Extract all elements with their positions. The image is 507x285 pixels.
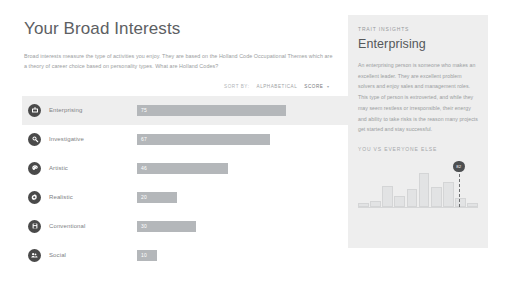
score-marker-badge: 82 — [453, 161, 465, 173]
interest-bar-fill — [137, 163, 228, 174]
interest-row-realistic[interactable]: Realistic 20 — [22, 183, 348, 212]
interest-label: Artistic — [49, 165, 137, 171]
sort-by-label: SORT BY: — [224, 84, 249, 89]
histogram-bar — [431, 187, 442, 207]
interest-bar-value: 10 — [141, 250, 147, 261]
trait-insight-card: TRAIT INSIGHTS Enterprising An enterpris… — [348, 15, 488, 248]
interest-bar-fill — [137, 105, 286, 116]
interest-bar-fill — [137, 134, 270, 145]
trait-insights-kicker: TRAIT INSIGHTS — [358, 26, 478, 32]
interest-bar-value: 67 — [141, 134, 147, 145]
interest-row-social[interactable]: Social 10 — [22, 241, 348, 270]
sort-option-score[interactable]: SCORE — [304, 84, 323, 89]
sort-controls: SORT BY: ALPHABETICAL SCORE ▾ — [22, 84, 330, 89]
chevron-down-icon[interactable]: ▾ — [327, 84, 330, 89]
interest-row-investigative[interactable]: Investigative 67 — [22, 125, 348, 154]
interest-bar-value: 46 — [141, 163, 147, 174]
report-page: Your Broad Interests Broad interests mea… — [0, 0, 507, 285]
interest-bar-track: 46 — [137, 163, 335, 174]
palette-icon — [28, 162, 41, 175]
interest-bar-track: 67 — [137, 134, 335, 145]
histogram-bar — [407, 189, 418, 207]
magnifier-icon — [28, 133, 41, 146]
interest-bar-track: 10 — [137, 250, 335, 261]
interest-label: Social — [49, 252, 137, 258]
broad-interests-section: Your Broad Interests Broad interests mea… — [8, 6, 348, 279]
briefcase-icon — [28, 104, 41, 117]
interest-row-artistic[interactable]: Artistic 46 — [22, 154, 348, 183]
trait-insight-body: An enterprising person is someone who ma… — [358, 60, 478, 135]
holland-codes-link[interactable]: What are Holland Codes? — [155, 63, 218, 69]
interest-label: Realistic — [49, 194, 137, 200]
interest-bar-track: 20 — [137, 192, 335, 203]
interest-label: Conventional — [49, 223, 137, 229]
interest-bar-value: 75 — [141, 105, 147, 116]
histogram-bar — [443, 182, 454, 207]
interest-row-conventional[interactable]: Conventional 30 — [22, 212, 348, 241]
interest-bar-list: Enterprising 75 Invest — [22, 96, 348, 270]
report-card: Your Broad Interests Broad interests mea… — [8, 6, 499, 279]
histogram-bar — [455, 198, 466, 207]
interest-row-enterprising[interactable]: Enterprising 75 — [22, 96, 348, 125]
histogram-bar — [394, 196, 405, 207]
score-marker-stem — [459, 174, 460, 207]
trait-insight-title: Enterprising — [358, 37, 478, 51]
sort-option-alphabetical[interactable]: ALPHABETICAL — [257, 84, 298, 89]
comparison-chart-title: YOU VS EVERYONE ELSE — [358, 146, 478, 152]
document-save-icon — [28, 220, 41, 233]
interest-label: Investigative — [49, 136, 137, 142]
histogram-bar — [419, 173, 430, 206]
interest-bar-value: 20 — [141, 192, 147, 203]
interest-bar-track: 75 — [137, 105, 335, 116]
page-description: Broad interests measure the type of acti… — [24, 51, 334, 71]
interest-bar-track: 30 — [137, 221, 335, 232]
interest-bar-value: 30 — [141, 221, 147, 232]
page-title: Your Broad Interests — [24, 20, 348, 39]
gear-icon — [28, 191, 41, 204]
trait-insights-sidebar: TRAIT INSIGHTS Enterprising An enterpris… — [348, 6, 499, 279]
histogram-axis — [358, 207, 478, 208]
people-icon — [28, 249, 41, 262]
histogram-bar — [382, 186, 393, 207]
interest-label: Enterprising — [49, 107, 137, 113]
comparison-histogram: 82 — [358, 161, 478, 211]
